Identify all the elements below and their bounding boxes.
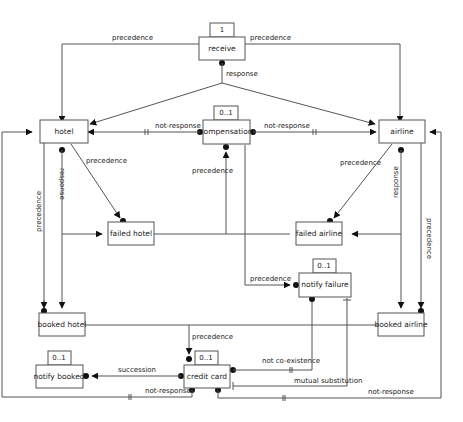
edge-hotel-response[interactable]: response <box>58 147 102 308</box>
node-booked-airline[interactable]: booked airline <box>374 313 427 336</box>
edge-cc-hotel-notresp[interactable]: not-response <box>2 132 195 400</box>
cardinality-badge: 1 <box>220 26 224 34</box>
node-failed-airline[interactable]: failed airline <box>296 222 343 245</box>
edge-label: not-response <box>264 122 310 130</box>
edge-label: response <box>226 70 258 78</box>
node-airline[interactable]: airline <box>379 120 425 143</box>
node-label: notify failure <box>301 280 349 289</box>
edge-label: precedence <box>425 218 433 259</box>
edge-label: not co-existence <box>262 357 320 365</box>
node-hotel[interactable]: hotel <box>40 120 88 143</box>
edge-label: not-response <box>155 122 201 130</box>
edge-label: not-response <box>368 388 414 396</box>
edge-label: succession <box>118 366 156 374</box>
edge-label: precedence <box>192 167 233 175</box>
edge-receive-hotel[interactable]: precedence <box>59 34 199 132</box>
cardinality-badge: 0..1 <box>317 262 330 270</box>
node-label: failed hotel <box>110 229 152 238</box>
edge-hotel-booked[interactable]: precedence <box>35 143 47 314</box>
edges: precedence precedence response not-respo… <box>2 34 441 401</box>
node-failed-hotel[interactable]: failed hotel <box>108 222 154 245</box>
node-label: booked hotel <box>38 320 87 329</box>
node-label: booked airline <box>374 320 427 329</box>
edge-label: precedence <box>112 34 153 42</box>
edge-label: precedence <box>86 157 127 165</box>
node-notify-failure[interactable]: 0..1 notify failure <box>299 259 351 297</box>
edge-comp-airline[interactable]: not-response <box>250 122 376 135</box>
edge-label: precedence <box>340 159 381 167</box>
node-label: notify booked <box>33 372 84 381</box>
edge-cc-notify-failure-sub[interactable]: mutual substitution <box>233 298 362 390</box>
edge-cc-notify-booked[interactable]: succession <box>83 366 184 379</box>
edge-failed-notify[interactable]: precedence <box>245 145 299 288</box>
edge-airline-booked[interactable]: precedence <box>418 143 433 314</box>
edge-booked-cc[interactable]: precedence <box>85 325 378 362</box>
edge-label: response <box>58 168 66 200</box>
edge-comp-hotel[interactable]: not-response <box>88 122 203 135</box>
node-notify-booked[interactable]: 0..1 notify booked <box>33 351 84 388</box>
node-compensation[interactable]: 0..1 compensation <box>199 106 252 144</box>
edge-airline-response[interactable]: response <box>352 147 404 308</box>
edge-label: response <box>392 166 400 198</box>
cardinality-badge: 0..1 <box>52 354 65 362</box>
edge-failed-comp[interactable]: precedence <box>135 144 290 234</box>
node-label: hotel <box>55 127 74 136</box>
edge-airline-failed[interactable]: precedence <box>327 144 392 224</box>
node-label: credit card <box>187 372 227 381</box>
edge-label: precedence <box>250 275 291 283</box>
node-booked-hotel[interactable]: booked hotel <box>38 313 87 336</box>
node-credit-card[interactable]: 0..1 credit card <box>184 351 230 388</box>
edge-label: precedence <box>250 34 291 42</box>
node-receive[interactable]: 1 receive <box>199 23 245 60</box>
node-label: receive <box>208 44 236 53</box>
edge-hotel-failed[interactable]: precedence <box>71 144 127 224</box>
cardinality-badge: 0..1 <box>199 354 212 362</box>
edge-label: precedence <box>35 191 43 232</box>
node-label: airline <box>390 127 414 136</box>
edge-cc-notify-failure-coex[interactable]: not co-existence <box>230 296 320 373</box>
cardinality-badge: 0..1 <box>219 109 232 117</box>
edge-receive-airline[interactable]: precedence <box>245 34 403 132</box>
edge-label: mutual substitution <box>294 377 362 385</box>
node-label: compensation <box>199 127 252 136</box>
edge-label: precedence <box>192 333 233 341</box>
node-label: failed airline <box>296 229 343 238</box>
constraint-diagram: precedence precedence response not-respo… <box>0 0 463 422</box>
